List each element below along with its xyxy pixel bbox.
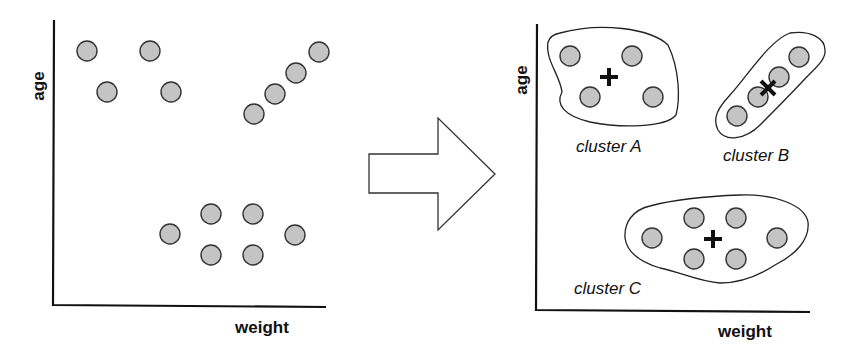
cluster-a-label: cluster A [576,137,642,156]
left-axes [53,20,326,307]
right-y-axis-label: age [512,65,531,94]
right-x-axis-label: weight [717,322,772,341]
data-point [243,204,263,224]
left-x-axis-label: weight [234,318,289,337]
clustering-diagram: age weight age weight cluster A cluster … [0,0,851,357]
data-point [622,46,642,66]
data-point [642,228,662,248]
data-point [286,63,306,83]
data-point [684,208,704,228]
data-point [560,46,580,66]
data-point [726,208,746,228]
data-point [580,87,600,107]
data-point [285,225,305,245]
cluster-c-label: cluster C [574,279,642,298]
data-point [201,245,221,265]
data-point [160,224,180,244]
data-point [140,41,160,61]
data-point [727,106,747,126]
data-point [767,228,787,248]
cluster-b-label: cluster B [723,146,789,165]
centroid-a-icon [600,68,618,86]
centroid-c-icon [704,230,722,248]
data-point [244,104,264,124]
transform-arrow-icon [369,118,495,230]
data-point [789,47,809,67]
data-point [684,249,704,269]
data-point [97,82,117,102]
data-point [265,84,285,104]
right-plot: age weight cluster A cluster B cluster C [512,24,825,341]
data-point [243,245,263,265]
left-data-points [77,41,329,265]
left-plot: age weight [29,20,329,337]
data-point [77,41,97,61]
data-point [201,204,221,224]
left-y-axis-label: age [29,71,48,100]
data-point [726,249,746,269]
data-point [161,82,181,102]
data-point [643,87,663,107]
data-point [309,42,329,62]
